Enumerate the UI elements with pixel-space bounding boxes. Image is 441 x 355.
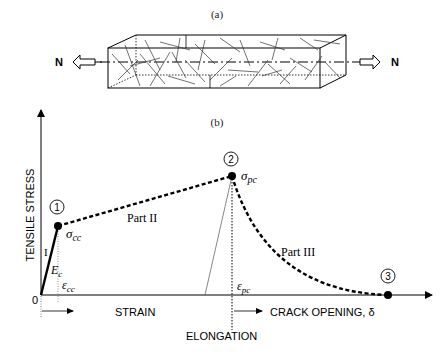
panel-a-label: (a) [211, 8, 224, 21]
crack-opening-label: CRACK OPENING, δ [270, 306, 375, 318]
sigma-pc-label: σpc [241, 168, 257, 185]
svg-text:3: 3 [385, 271, 391, 282]
panel-b-label: (b) [211, 116, 224, 129]
y-axis-label: TENSILE STRESS [24, 169, 36, 262]
load-label-right: N [391, 56, 399, 68]
modulus-label: Ec [50, 263, 62, 279]
point-2-marker [228, 172, 236, 180]
load-arrow-left: N [55, 55, 102, 69]
part-1-label: I [44, 246, 48, 258]
svg-text:2: 2 [228, 154, 234, 165]
point-1-marker [54, 222, 62, 230]
origin-label: 0 [32, 294, 38, 306]
panel-a: (a) [55, 8, 399, 88]
figure-canvas: (a) [0, 0, 441, 355]
sigma-cc-label: σcc [66, 226, 82, 243]
eps-pc-label: εpc [237, 279, 250, 295]
part-1-curve [41, 226, 58, 295]
part-2-label: Part II [127, 211, 157, 225]
part-3-curve [232, 176, 388, 295]
load-label-left: N [55, 56, 63, 68]
point-2-badge: 2 [224, 152, 238, 166]
svg-text:1: 1 [54, 202, 60, 213]
point-3-badge: 3 [381, 269, 395, 283]
part-3-label: Part III [281, 245, 315, 259]
fiber-prism [100, 35, 352, 88]
eps-cc-label: εcc [62, 278, 75, 294]
point-1-badge: 1 [50, 200, 64, 214]
load-arrow-right: N [352, 55, 399, 69]
strain-label: STRAIN [115, 306, 155, 318]
point-3-marker [384, 291, 392, 299]
panel-b: (b) TENSILE STRESS 0 1 2 [24, 110, 432, 342]
unloading-line [205, 176, 232, 295]
elongation-label: ELONGATION [186, 330, 257, 342]
